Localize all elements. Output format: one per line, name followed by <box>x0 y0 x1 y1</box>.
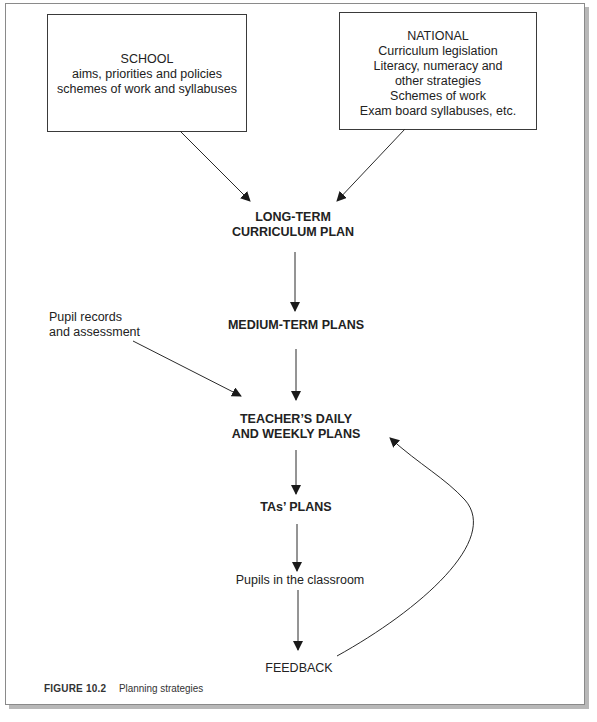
teacher-plans-line: AND WEEKLY PLANS <box>232 427 361 442</box>
figure-title: Planning strategies <box>119 682 203 694</box>
national-title: NATIONAL <box>360 29 516 44</box>
pupils-classroom-node: Pupils in the classroom <box>236 573 365 588</box>
teacher-plans-node: TEACHER’S DAILY AND WEEKLY PLANS <box>232 412 361 442</box>
feedback-node: FEEDBACK <box>265 661 332 676</box>
long-term-line: LONG-TERM <box>232 210 354 225</box>
pupil-records-line: Pupil records <box>49 310 140 325</box>
ta-plans-node: TAs’ PLANS <box>260 500 331 515</box>
national-line: Literacy, numeracy and <box>360 59 516 74</box>
figure-number: FIGURE 10.2 <box>44 683 106 694</box>
national-line: other strategies <box>360 74 516 89</box>
national-box: NATIONAL Curriculum legislation Literacy… <box>339 12 537 130</box>
national-line: Schemes of work <box>360 89 516 104</box>
medium-term-plans-node: MEDIUM-TERM PLANS <box>228 318 364 333</box>
national-line: Exam board syllabuses, etc. <box>360 104 516 119</box>
long-term-plan-node: LONG-TERM CURRICULUM PLAN <box>232 210 354 240</box>
national-line: Curriculum legislation <box>360 44 516 59</box>
school-title: SCHOOL <box>57 52 237 67</box>
school-line: aims, priorities and policies <box>57 67 237 82</box>
long-term-line: CURRICULUM PLAN <box>232 225 354 240</box>
pupil-records-line: and assessment <box>49 325 140 340</box>
teacher-plans-line: TEACHER’S DAILY <box>232 412 361 427</box>
school-line: schemes of work and syllabuses <box>57 82 237 97</box>
figure-caption: FIGURE 10.2 Planning strategies <box>44 682 213 694</box>
pupil-records-label: Pupil records and assessment <box>49 310 140 340</box>
school-box: SCHOOL aims, priorities and policies sch… <box>47 14 247 132</box>
